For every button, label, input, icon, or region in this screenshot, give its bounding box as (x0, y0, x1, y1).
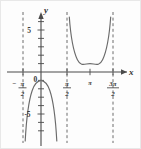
svg-text:3π: 3π (108, 80, 117, 88)
y-axis-label: y (43, 5, 49, 15)
axis-name-layer: y x 0 5 -5 − π 2 π 2 π 3π 2 (1, 1, 141, 149)
y-tick-label-neg-5: -5 (24, 110, 30, 119)
svg-text:2: 2 (64, 90, 69, 98)
graph-figure: y x 0 5 -5 − π 2 π 2 π 3π 2 (0, 0, 141, 149)
x-tick-label-three-pi-over-2: 3π 2 (107, 80, 119, 99)
svg-text:2: 2 (20, 90, 25, 98)
svg-text:π: π (21, 80, 25, 88)
svg-text:2: 2 (110, 90, 115, 98)
x-tick-label-neg-pi-over-2: − π 2 (13, 80, 27, 99)
x-tick-label-pi: π (88, 79, 92, 86)
x-axis-label: x (128, 67, 134, 77)
svg-text:π: π (65, 80, 69, 88)
svg-text:−: − (13, 80, 17, 88)
x-tick-label-pi-over-2: π 2 (63, 80, 71, 99)
origin-label: 0 (34, 75, 38, 84)
y-tick-label-5: 5 (27, 26, 31, 35)
